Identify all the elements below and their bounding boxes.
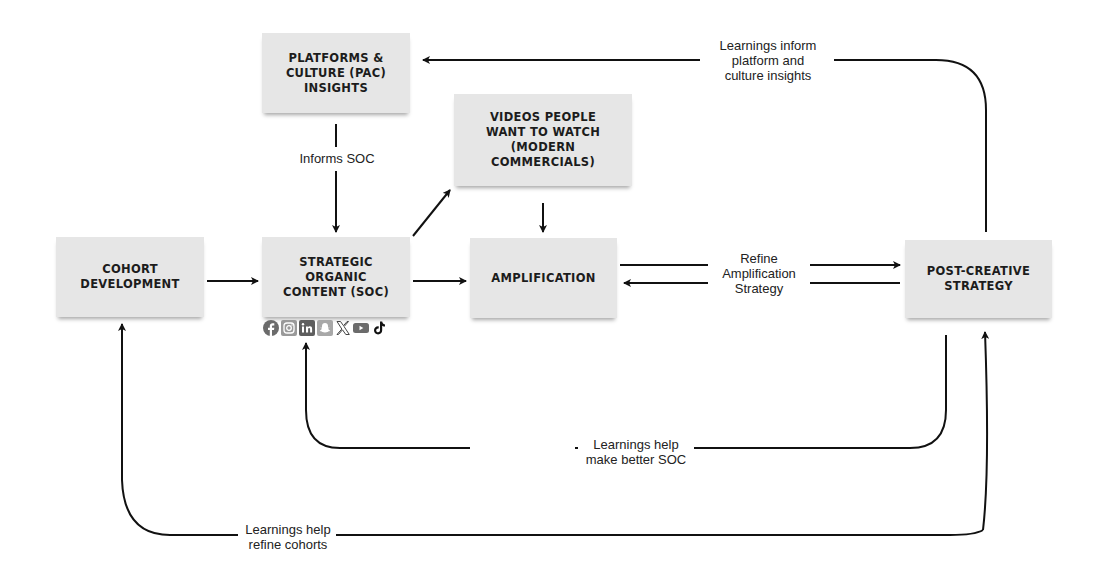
instagram-icon [281,320,297,336]
node-videos-people-want-to-watch: VIDEOS PEOPLE WANT TO WATCH (MODERN COMM… [454,94,632,186]
node-amplification: AMPLIFICATION [470,238,617,318]
linkedin-icon [299,320,315,336]
youtube-icon [353,320,369,336]
edge-label-refine-amplification: Refine Amplification Strategy [710,251,808,296]
node-cohort-development: COHORT DEVELOPMENT [56,237,204,317]
edge-label-informs-soc: Informs SOC [287,151,387,166]
snapchat-icon [317,320,333,336]
node-label: POST-CREATIVE STRATEGY [927,264,1030,294]
node-label: STRATEGIC ORGANIC CONTENT (SOC) [283,255,389,300]
x-icon [335,320,351,336]
edge-label-learnings-inform-platform: Learnings inform platform and culture in… [706,38,830,83]
node-strategic-organic-content: STRATEGIC ORGANIC CONTENT (SOC) [262,237,410,317]
facebook-icon [263,320,279,336]
node-label: AMPLIFICATION [491,271,595,286]
node-label: COHORT DEVELOPMENT [80,262,179,292]
edge-label-learnings-refine-cohorts: Learnings help refine cohorts [240,522,336,552]
tiktok-icon [371,320,387,336]
node-platforms-culture-insights: PLATFORMS & CULTURE (PAC) INSIGHTS [262,33,410,113]
social-icons-row [263,320,387,336]
node-label: VIDEOS PEOPLE WANT TO WATCH (MODERN COMM… [486,110,600,170]
edge-label-learnings-better-soc: Learnings help make better SOC [578,437,694,467]
node-label: PLATFORMS & CULTURE (PAC) INSIGHTS [286,51,386,96]
node-post-creative-strategy: POST-CREATIVE STRATEGY [905,240,1052,318]
